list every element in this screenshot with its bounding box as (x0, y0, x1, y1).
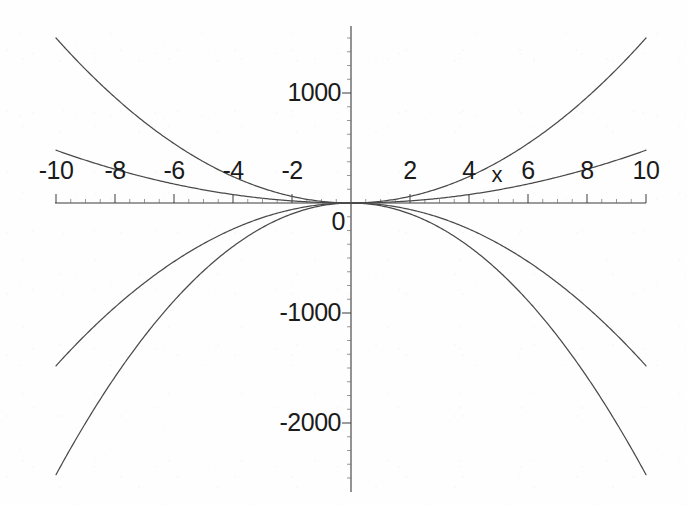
x-tick-label-6: 6 (521, 156, 534, 184)
x-tick-label-2: 2 (403, 156, 416, 184)
x-tick-label-8: 8 (580, 156, 593, 184)
axes-group (55, 26, 646, 492)
x-tick-label--10: -10 (39, 156, 74, 184)
y-tick-label-minus-2000: -2000 (280, 408, 341, 436)
x-tick-label--8: -8 (104, 156, 125, 184)
x-axis-label: x (492, 162, 503, 187)
x-tick-label--2: -2 (281, 156, 302, 184)
plot-figure: -10-8-6-4-2246810 1000 -1000 -2000 0 x (0, 0, 687, 505)
y-axis-minor-ticks (347, 38, 351, 478)
x-axis-tick-labels: -10-8-6-4-2246810 (39, 156, 660, 184)
origin-label-zero: 0 (332, 207, 345, 235)
y-tick-label-1000: 1000 (287, 78, 341, 106)
x-tick-label-10: 10 (633, 156, 660, 184)
x-tick-label--6: -6 (163, 156, 184, 184)
x-tick-label--4: -4 (222, 156, 244, 184)
y-tick-label-minus-1000: -1000 (280, 298, 341, 326)
x-tick-label-4: 4 (462, 156, 476, 184)
cartesian-plot: -10-8-6-4-2246810 1000 -1000 -2000 0 x (0, 0, 687, 505)
